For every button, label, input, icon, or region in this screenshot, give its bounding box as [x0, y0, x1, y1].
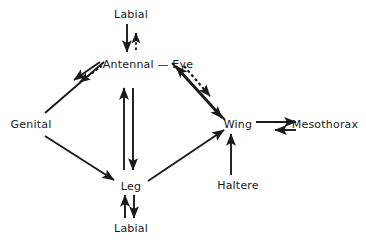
node-leg: Leg: [121, 181, 141, 192]
edge-genital-to-leg-solid: [45, 136, 114, 180]
node-wing: Wing: [224, 119, 252, 130]
node-labial-top: Labial: [114, 9, 148, 20]
node-antennal-eye: Antennal — Eye: [103, 59, 193, 70]
node-mesothorax: Mesothorax: [292, 119, 359, 130]
edge-leg-to-wing-solid: [148, 130, 224, 181]
edge-wing-to-antennal-solid: [176, 66, 225, 120]
transdetermination-diagram: Labial Antennal — Eye Genital Wing Mesot…: [0, 0, 366, 243]
node-labial-bottom: Labial: [114, 223, 148, 234]
edge-genital-to-antennal-solid: [45, 62, 104, 113]
node-genital: Genital: [11, 119, 52, 130]
node-haltere: Haltere: [217, 180, 259, 191]
